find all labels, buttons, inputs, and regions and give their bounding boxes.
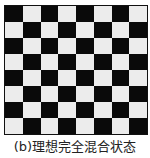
white-cell (41, 22, 59, 38)
black-cell (5, 6, 23, 22)
white-cell (58, 102, 76, 118)
black-cell (129, 86, 147, 102)
figure-caption: (b)理想完全混合状态 (0, 138, 150, 156)
black-cell (58, 86, 76, 102)
white-cell (58, 6, 76, 22)
white-cell (23, 38, 41, 54)
white-cell (23, 6, 41, 22)
black-cell (76, 6, 94, 22)
black-cell (23, 118, 41, 134)
white-cell (76, 22, 94, 38)
black-cell (5, 38, 23, 54)
black-cell (41, 70, 59, 86)
white-cell (129, 70, 147, 86)
black-cell (58, 118, 76, 134)
checkerboard-mixing-diagram (4, 5, 148, 135)
black-cell (5, 102, 23, 118)
black-cell (94, 54, 112, 70)
black-cell (112, 6, 130, 22)
white-cell (94, 6, 112, 22)
white-cell (23, 102, 41, 118)
black-cell (112, 70, 130, 86)
white-cell (112, 86, 130, 102)
black-cell (94, 86, 112, 102)
black-cell (58, 54, 76, 70)
white-cell (129, 38, 147, 54)
black-cell (129, 22, 147, 38)
white-cell (129, 6, 147, 22)
white-cell (5, 86, 23, 102)
black-cell (129, 54, 147, 70)
white-cell (5, 22, 23, 38)
black-cell (41, 6, 59, 22)
white-cell (94, 102, 112, 118)
black-cell (23, 22, 41, 38)
white-cell (76, 54, 94, 70)
black-cell (76, 102, 94, 118)
white-cell (76, 118, 94, 134)
black-cell (76, 70, 94, 86)
black-cell (5, 70, 23, 86)
white-cell (112, 118, 130, 134)
black-cell (23, 54, 41, 70)
white-cell (41, 54, 59, 70)
black-cell (23, 86, 41, 102)
white-cell (23, 70, 41, 86)
white-cell (112, 22, 130, 38)
white-cell (129, 102, 147, 118)
black-cell (58, 22, 76, 38)
white-cell (41, 86, 59, 102)
black-cell (94, 118, 112, 134)
white-cell (5, 118, 23, 134)
white-cell (58, 70, 76, 86)
white-cell (5, 54, 23, 70)
black-cell (112, 102, 130, 118)
white-cell (58, 38, 76, 54)
black-cell (129, 118, 147, 134)
black-cell (76, 38, 94, 54)
black-cell (41, 38, 59, 54)
white-cell (94, 70, 112, 86)
white-cell (94, 38, 112, 54)
white-cell (76, 86, 94, 102)
white-cell (41, 118, 59, 134)
black-cell (112, 38, 130, 54)
black-cell (94, 22, 112, 38)
black-cell (41, 102, 59, 118)
white-cell (112, 54, 130, 70)
